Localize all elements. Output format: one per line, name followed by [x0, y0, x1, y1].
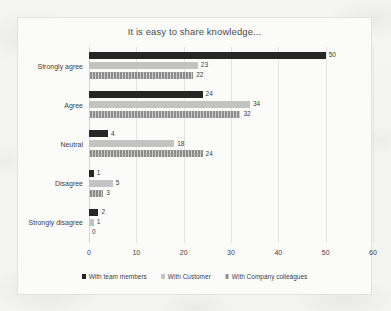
bar-row: 5 — [89, 180, 119, 187]
bar-row: 2 — [89, 209, 105, 216]
legend-swatch-icon — [225, 274, 230, 279]
value-tick-label: 30 — [227, 249, 235, 256]
bar[interactable] — [89, 111, 240, 118]
legend-item[interactable]: With Company colleagues — [225, 273, 308, 280]
value-tick-label: 50 — [322, 249, 330, 256]
bar-value-label: 5 — [116, 180, 120, 187]
bar-value-label: 34 — [253, 101, 260, 108]
bar[interactable] — [89, 219, 94, 226]
legend-label: With Company colleagues — [232, 273, 308, 280]
plot-area: 50232224343241824153210 — [89, 47, 373, 243]
bar-value-label: 32 — [243, 111, 250, 118]
legend-swatch-icon — [82, 274, 87, 279]
bar-row: 3 — [89, 190, 110, 197]
bar-value-label: 3 — [106, 190, 110, 197]
bar-value-label: 0 — [92, 229, 96, 236]
bar-value-label: 24 — [206, 91, 213, 98]
bar[interactable] — [89, 62, 198, 69]
bar-row: 34 — [89, 101, 260, 108]
chart-legend: With team membersWith CustomerWith Compa… — [18, 273, 371, 280]
bar[interactable] — [89, 180, 113, 187]
bar-row: 1 — [89, 170, 100, 177]
value-axis: 0102030405060 — [89, 249, 373, 261]
category-label: Neutral — [19, 141, 83, 148]
bar-row: 1 — [89, 219, 100, 226]
category-label: Strongly disagree — [19, 219, 83, 226]
legend-item[interactable]: With team members — [82, 273, 147, 280]
legend-label: With team members — [89, 273, 147, 280]
bar-row: 24 — [89, 150, 213, 157]
bar[interactable] — [89, 150, 203, 157]
bar-row: 24 — [89, 91, 213, 98]
bar[interactable] — [89, 190, 103, 197]
chart-container: It is easy to share knowledge... 5023222… — [17, 17, 372, 295]
bar-value-label: 1 — [97, 170, 101, 177]
value-tick-label: 20 — [180, 249, 188, 256]
bar[interactable] — [89, 101, 250, 108]
bar-value-label: 1 — [97, 219, 101, 226]
chart-title: It is easy to share knowledge... — [18, 26, 371, 37]
legend-swatch-icon — [161, 274, 166, 279]
category-label: Strongly agree — [19, 63, 83, 70]
bar-group: 41824 — [89, 125, 373, 164]
bar-group: 502322 — [89, 47, 373, 86]
category-label: Agree — [19, 102, 83, 109]
bar-row: 22 — [89, 72, 203, 79]
bar-row: 18 — [89, 140, 184, 147]
bar[interactable] — [89, 52, 326, 59]
bar[interactable] — [89, 72, 193, 79]
bar-row: 4 — [89, 130, 115, 137]
legend-item[interactable]: With Customer — [161, 273, 211, 280]
bar-row: 32 — [89, 111, 251, 118]
bar-group: 243432 — [89, 86, 373, 125]
category-axis: Strongly agreeAgreeNeutralDisagreeStrong… — [22, 47, 86, 243]
value-tick-label: 10 — [132, 249, 140, 256]
bar[interactable] — [89, 170, 94, 177]
bar[interactable] — [89, 91, 203, 98]
category-label: Disagree — [19, 180, 83, 187]
value-tick-label: 0 — [87, 249, 91, 256]
bar-row: 50 — [89, 52, 336, 59]
value-tick-label: 60 — [369, 249, 377, 256]
value-tick-label: 40 — [274, 249, 282, 256]
gridline-60 — [373, 47, 374, 243]
bar-value-label: 23 — [201, 62, 208, 69]
bar[interactable] — [89, 140, 174, 147]
bar-value-label: 2 — [101, 209, 105, 216]
bar-value-label: 4 — [111, 131, 115, 138]
bar-value-label: 22 — [196, 72, 203, 79]
bar[interactable] — [89, 130, 108, 137]
legend-label: With Customer — [168, 273, 211, 280]
bar[interactable] — [89, 209, 98, 216]
bar-row: 0 — [89, 229, 96, 236]
bar-group: 210 — [89, 204, 373, 243]
bar-row: 23 — [89, 62, 208, 69]
bar-value-label: 50 — [329, 52, 336, 59]
bar-group: 153 — [89, 165, 373, 204]
bar-value-label: 18 — [177, 141, 184, 148]
bar-value-label: 24 — [206, 151, 213, 158]
